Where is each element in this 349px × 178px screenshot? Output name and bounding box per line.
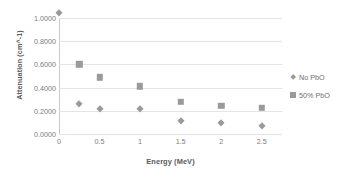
data-point-square-marker-icon xyxy=(177,98,183,104)
square-marker-icon xyxy=(288,92,298,97)
data-point-diamond-marker-icon xyxy=(136,106,143,113)
x-tick-label: 2 xyxy=(206,137,236,146)
data-point-square-marker-icon xyxy=(137,83,143,89)
data-point-diamond-marker-icon xyxy=(258,122,265,129)
chart-legend: No PbO50% PbO xyxy=(288,68,348,104)
diamond-marker-icon xyxy=(288,75,298,79)
legend-label: No PbO xyxy=(299,73,325,82)
data-point-square-marker-icon xyxy=(76,61,82,67)
x-axis-tick-labels: 00.511.522.5 xyxy=(59,137,282,151)
gridline xyxy=(59,18,282,19)
y-tick-label: 0.2000 xyxy=(16,106,56,115)
legend-entry[interactable]: 50% PbO xyxy=(288,86,348,104)
scatter-chart: Attenuation (cm^-1) 0.00000.20000.40000.… xyxy=(0,0,349,178)
gridline xyxy=(59,41,282,42)
y-tick-label: 1.0000 xyxy=(16,14,56,23)
data-point-square-marker-icon xyxy=(96,74,102,80)
gridline xyxy=(59,88,282,89)
x-tick-label: 2.5 xyxy=(247,137,277,146)
data-point-diamond-marker-icon xyxy=(177,118,184,125)
x-tick-label: 0.5 xyxy=(85,137,115,146)
y-tick-label: 0.8000 xyxy=(16,37,56,46)
x-tick-label: 0 xyxy=(44,137,74,146)
plot-area xyxy=(59,18,282,134)
data-point-square-marker-icon xyxy=(259,105,265,111)
gridline xyxy=(59,111,282,112)
data-point-diamond-marker-icon xyxy=(76,100,83,107)
legend-entry[interactable]: No PbO xyxy=(288,68,348,86)
data-point-square-marker-icon xyxy=(218,102,224,108)
gridline xyxy=(59,134,282,135)
gridline xyxy=(59,64,282,65)
x-axis-title: Energy (MeV) xyxy=(58,157,283,166)
x-tick-label: 1 xyxy=(125,137,155,146)
data-point-diamond-marker-icon xyxy=(218,119,225,126)
legend-label: 50% PbO xyxy=(299,91,330,100)
y-axis-tick-labels: 0.00000.20000.40000.60000.80001.0000 xyxy=(12,18,56,134)
y-tick-label: 0.4000 xyxy=(16,83,56,92)
x-tick-label: 1.5 xyxy=(166,137,196,146)
y-tick-label: 0.6000 xyxy=(16,60,56,69)
